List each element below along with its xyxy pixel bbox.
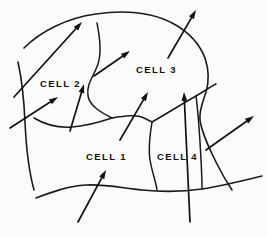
cell-label-cell-2: CELL 2 bbox=[40, 79, 81, 89]
arrow-cell2-left-head bbox=[49, 97, 58, 104]
arrow-cell3-lower-shaft bbox=[120, 98, 145, 140]
divider-cell2-cell3 bbox=[88, 23, 112, 118]
bottom-wave-boundary bbox=[36, 176, 262, 198]
arrow-cell1-bottom bbox=[78, 170, 106, 222]
internal-dividers-group bbox=[34, 23, 216, 190]
arrow-cell2-cell3-shaft bbox=[94, 55, 125, 76]
arrow-cell4-vertical-head bbox=[182, 92, 188, 101]
cell-structure-figure: CELL 2 CELL 3 CELL 1 CELL 4 bbox=[0, 0, 267, 237]
arrow-cell1-bottom-head bbox=[99, 170, 106, 179]
cell-label-cell-4: CELL 4 bbox=[157, 152, 198, 162]
arrow-cell3-lower-head bbox=[141, 92, 148, 101]
arrow-cell2-cell3-head bbox=[121, 51, 130, 59]
divider-cell1-cell4 bbox=[149, 122, 157, 190]
arrow-cell2-lower-shaft bbox=[70, 90, 82, 131]
cell-label-cell-3: CELL 3 bbox=[136, 65, 177, 75]
arrow-cell3-top-head bbox=[189, 10, 196, 19]
arrow-cell1-bottom-shaft bbox=[78, 176, 103, 222]
arrow-right-side bbox=[206, 116, 254, 150]
arrow-cell3-top bbox=[168, 10, 196, 58]
arrow-cell2-left bbox=[10, 97, 58, 128]
arrow-cell2-lower bbox=[70, 84, 84, 131]
right-lower-boundary bbox=[200, 120, 232, 190]
arrow-right-side-shaft bbox=[206, 120, 249, 150]
cell-label-cell-1: CELL 1 bbox=[86, 152, 127, 162]
top-arc-boundary bbox=[24, 12, 205, 58]
left-edge-boundary bbox=[18, 62, 34, 190]
figure-canvas bbox=[0, 0, 267, 237]
